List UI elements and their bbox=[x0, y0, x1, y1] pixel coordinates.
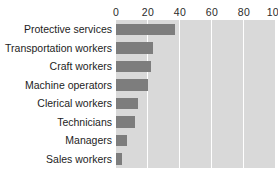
bar-row: Sales workers bbox=[0, 150, 278, 169]
category-label: Technicians bbox=[0, 113, 112, 132]
x-tick-label: 100 bbox=[267, 6, 278, 19]
x-tick-label: 60 bbox=[206, 6, 218, 19]
category-label: Craft workers bbox=[0, 57, 112, 76]
category-label: Machine operators bbox=[0, 76, 112, 95]
bar bbox=[116, 153, 122, 165]
category-label: Sales workers bbox=[0, 150, 112, 169]
bar-row: Craft workers bbox=[0, 57, 278, 76]
bar-row: Technicians bbox=[0, 113, 278, 132]
category-label: Transportation workers bbox=[0, 39, 112, 58]
bar-row: Machine operators bbox=[0, 76, 278, 95]
category-label: Managers bbox=[0, 131, 112, 150]
bar-row: Managers bbox=[0, 131, 278, 150]
x-tick-label: 80 bbox=[238, 6, 250, 19]
bar bbox=[116, 98, 138, 110]
bar bbox=[116, 42, 153, 54]
x-tick-label: 40 bbox=[174, 6, 186, 19]
x-tick-label: 20 bbox=[142, 6, 154, 19]
bar-row: Transportation workers bbox=[0, 39, 278, 58]
horizontal-bar-chart: 020406080100 Protective servicesTranspor… bbox=[0, 0, 278, 195]
bar bbox=[116, 24, 175, 36]
bar-rows: Protective servicesTransportation worker… bbox=[0, 20, 278, 168]
x-axis-tick-labels: 020406080100 bbox=[116, 6, 276, 19]
category-label: Protective services bbox=[0, 20, 112, 39]
bar bbox=[116, 135, 127, 147]
bar bbox=[116, 79, 148, 91]
x-tick-label: 0 bbox=[113, 6, 119, 19]
bar bbox=[116, 116, 135, 128]
bar bbox=[116, 61, 151, 73]
bar-row: Clerical workers bbox=[0, 94, 278, 113]
bar-row: Protective services bbox=[0, 20, 278, 39]
category-label: Clerical workers bbox=[0, 94, 112, 113]
